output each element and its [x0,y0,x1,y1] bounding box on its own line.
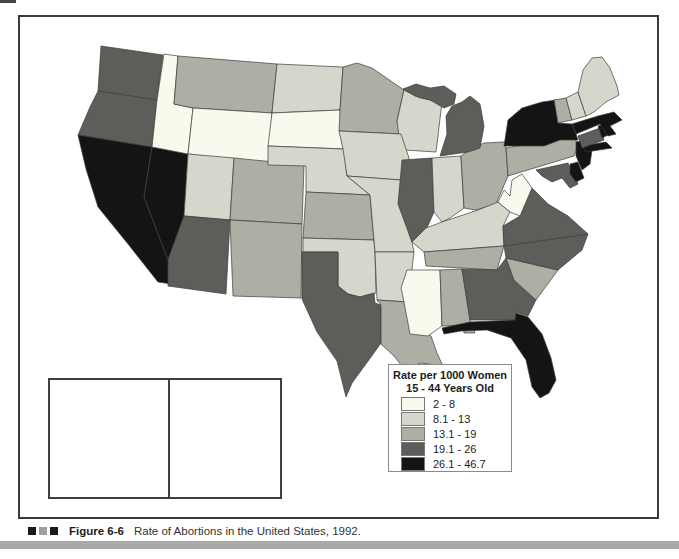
state-kansas [303,192,374,240]
state-minnesota [339,63,404,134]
figure-caption: Figure 6-6 Rate of Abortions in the Unit… [28,524,361,538]
caption-marker-icon [39,527,47,535]
legend-title-line1: Rate per 1000 Women [389,369,511,382]
figure-label: Figure 6-6 [69,525,124,537]
legend-row: 2 - 8 [401,397,511,410]
state-new-mexico [230,220,302,298]
legend-class-label: 19.1 - 26 [433,443,476,455]
bottom-divider-bar [0,541,679,549]
legend-color-swatch [401,457,425,471]
caption-marker-icon [28,527,36,535]
figure-caption-text: Rate of Abortions in the United States, … [134,525,361,537]
caption-marker-icon [50,527,58,535]
state-indiana [432,156,464,222]
state-colorado [230,158,304,224]
state-iowa [339,131,409,180]
legend-class-label: 8.1 - 13 [433,413,470,425]
state-north-dakota [272,64,343,113]
legend-color-swatch [401,412,425,426]
legend-row: 19.1 - 26 [401,442,511,455]
legend-row: 26.1 - 46.7 [401,457,511,470]
legend-class-label: 26.1 - 46.7 [433,458,486,470]
state-south-dakota [268,110,344,149]
legend-color-swatch [401,442,425,456]
legend-row: 8.1 - 13 [401,412,511,425]
legend-class-label: 13.1 - 19 [433,428,476,440]
state-utah [184,154,234,220]
state-montana [174,56,277,113]
legend-color-swatch [401,427,425,441]
legend-class-label: 2 - 8 [433,398,455,410]
state-washington [98,46,163,100]
legend-row: 13.1 - 19 [401,427,511,440]
hawaii-inset [168,378,282,499]
state-maine [578,57,619,116]
legend: Rate per 1000 Women 15 - 44 Years Old 2 … [388,364,512,472]
legend-color-swatch [401,397,425,411]
alaska-inset [48,378,170,499]
legend-title-line2: 15 - 44 Years Old [389,382,511,395]
